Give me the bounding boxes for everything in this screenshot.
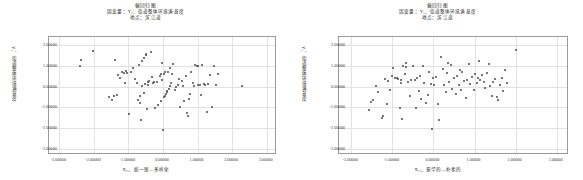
scatter-point [502,90,504,92]
scatter-point [141,85,143,87]
scatter-point [79,65,81,67]
scatter-point [113,95,115,97]
scatter-point [123,72,125,74]
scatter-point [455,93,457,95]
scatter-point [432,77,434,79]
scatter-point [139,102,141,104]
scatter-point [499,84,501,86]
scatter-point [134,78,136,80]
scatter-point [386,103,388,105]
scatter-point [119,77,121,79]
gridline-horizontal [49,45,275,46]
scatter-point [428,71,430,73]
scatter-point [477,77,479,79]
scatter-point [469,83,471,85]
scatter-point [506,82,508,84]
partial-regression-plots: 偏回归图 因变量：Y₁、街道整体环境满意度 地点：滨江道 Y₁、街道整体环境满意… [0,0,583,180]
scatter-point [492,81,494,83]
scatter-point [213,65,215,67]
scatter-point [483,81,485,83]
gridline-vertical [433,37,434,153]
chart-title-left: 偏回归图 因变量：Y₁、街道整体环境满意度 地点：滨江道 [0,3,291,21]
scatter-point [217,73,219,75]
scatter-point [193,85,195,87]
scatter-point [491,95,493,97]
chart-panel-right: 偏回归图 因变量：Y₁、街道整体环境满意度 地点：滨江道 Y₁、街道整体环境满意… [292,0,583,180]
scatter-point [400,82,402,84]
gridline-vertical [128,37,129,153]
x-axis-tick-label: -3.00000 [51,157,66,162]
scatter-point [504,69,506,71]
scatter-point [372,99,374,101]
gridline-vertical [475,37,476,153]
y-axis-label: Y₁、街道整体环境满意度 [10,46,16,101]
scatter-point [187,115,189,117]
scatter-point [409,95,411,97]
scatter-point [160,73,162,75]
scatter-point [186,112,188,114]
gridline-vertical [198,37,199,153]
chart-title-right: 偏回归图 因变量：Y₁、街道整体环境满意度 地点：滨江道 [292,3,583,21]
scatter-point [418,90,420,92]
gridline-horizontal [339,107,567,108]
scatter-point [479,79,481,81]
y-axis-tick-label: -3.00000 [330,145,345,150]
x-axis-label: X₁₄、豪华的—朴素的 [292,166,583,172]
scatter-point [407,81,409,83]
scatter-point [132,67,134,69]
scatter-point [171,73,173,75]
scatter-point [447,62,449,64]
gridline-vertical [516,37,517,153]
x-axis-tick-label: 3.00000 [259,157,273,162]
scatter-point [377,91,379,93]
gridline-vertical [392,37,393,153]
scatter-point [440,56,442,58]
scatter-point [130,71,132,73]
scatter-point [148,80,150,82]
scatter-point [401,118,403,120]
scatter-point [139,95,141,97]
gridline-horizontal [49,149,275,150]
scatter-point [453,77,455,79]
scatter-point [471,76,473,78]
scatter-point [177,84,179,86]
x-axis-tick-label: -1.00000 [384,157,399,162]
scatter-point [170,82,172,84]
scatter-point [143,57,145,59]
scatter-point [108,96,110,98]
x-axis-tick-label: 2.00000 [508,157,522,162]
scatter-point [458,84,460,86]
scatter-point [478,60,480,62]
scatter-point [461,71,463,73]
scatter-point [473,89,475,91]
scatter-point [486,72,488,74]
x-axis-tick-label: 2.00000 [224,157,238,162]
scatter-point [381,117,383,119]
scatter-point [117,74,119,76]
scatter-point [137,99,139,101]
y-axis-tick-label: 0.00000 [331,83,345,88]
scatter-point [423,82,425,84]
scatter-point [111,99,113,101]
scatter-point [397,78,399,80]
scatter-point [151,76,153,78]
scatter-point [435,76,437,78]
scatter-point [387,80,389,82]
gridline-horizontal [49,66,275,67]
gridline-horizontal [339,66,567,67]
x-axis-tick-label: 0.00000 [425,157,439,162]
chart-panel-left: 偏回归图 因变量：Y₁、街道整体环境满意度 地点：滨江道 Y₁、街道整体环境满意… [0,0,291,180]
scatter-point [209,74,211,76]
y-axis-tick-label: -3.00000 [42,145,57,150]
y-axis-tick-label: -2.00000 [42,125,57,130]
scatter-point [404,73,406,75]
scatter-point [481,74,483,76]
x-axis-label: X₁₁、统一感—多样化 [0,166,291,172]
y-axis-tick-label: 2.00000 [331,42,345,47]
scatter-point [422,65,424,67]
scatter-point [165,93,167,95]
scatter-point [484,87,486,89]
scatter-point [124,82,126,84]
scatter-point [178,78,180,80]
scatter-point [445,91,447,93]
